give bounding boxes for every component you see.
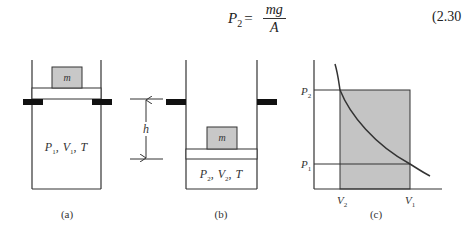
figure: m P1,V1,T (a) h m P2,V2,T (b) [0,0,465,235]
y-tick-p2: P2 [300,85,312,100]
caption-c: (c) [370,208,383,221]
x-tick-v1: V1 [405,194,416,209]
stop-a-right [92,99,112,105]
stop-b-right [257,99,277,105]
mass-a-label: m [63,72,70,83]
y-tick-p1: P1 [300,158,312,173]
piston-a [32,88,101,99]
caption-a: (a) [61,208,74,221]
panel-c-pv-diagram: P2 P1 V2 V1 (c) [300,60,442,221]
stop-b-left [166,99,186,105]
state-b-label: P2,V2,T [199,167,244,183]
state-a-label: P1,V1,T [44,140,89,156]
height-dimension: h [130,99,163,159]
panel-b: m P2,V2,T (b) [166,60,277,221]
stop-a-left [23,99,43,105]
dimension-label: h [143,122,149,136]
mass-b-label: m [218,132,225,143]
piston-b [186,149,257,159]
x-tick-v2: V2 [337,194,348,209]
panel-a: m P1,V1,T (a) [23,60,112,221]
caption-b: (b) [215,208,228,221]
